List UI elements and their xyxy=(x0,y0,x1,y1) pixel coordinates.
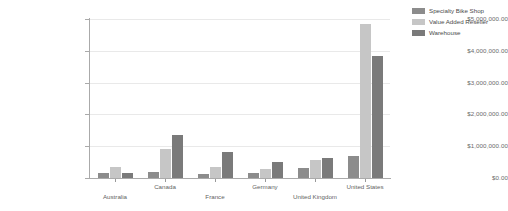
legend-item[interactable]: Value Added Reseller xyxy=(412,17,506,26)
bar-group xyxy=(198,19,233,178)
bar[interactable] xyxy=(260,169,271,178)
x-axis-tick-label: United States xyxy=(330,183,400,191)
gridline xyxy=(90,83,390,84)
legend-swatch-icon xyxy=(412,30,425,36)
bar-group xyxy=(298,19,333,178)
x-axis-tick xyxy=(165,179,166,182)
chart-legend: Specialty Bike ShopValue Added ResellerW… xyxy=(412,6,506,39)
y-axis-tick-label: $1,000,000.00 xyxy=(426,142,508,149)
bar[interactable] xyxy=(110,167,121,178)
bar[interactable] xyxy=(348,156,359,178)
x-axis-tick-label: Australia xyxy=(80,193,150,201)
bar[interactable] xyxy=(160,149,171,178)
x-axis-tick xyxy=(365,179,366,182)
gridline xyxy=(90,114,390,115)
bar-group xyxy=(248,19,283,178)
gridline xyxy=(90,146,390,147)
legend-swatch-icon xyxy=(412,19,425,25)
bar[interactable] xyxy=(222,152,233,178)
plot-area xyxy=(90,19,390,178)
legend-item[interactable]: Specialty Bike Shop xyxy=(412,6,506,15)
bar-group xyxy=(148,19,183,178)
bar[interactable] xyxy=(148,172,159,178)
x-axis-tick-label: United Kingdom xyxy=(280,193,350,201)
legend-label: Warehouse xyxy=(429,29,460,37)
bar[interactable] xyxy=(210,167,221,178)
bar[interactable] xyxy=(122,173,133,178)
x-axis-tick xyxy=(265,179,266,182)
bar[interactable] xyxy=(360,24,371,178)
y-axis-tick xyxy=(85,178,89,179)
y-axis-tick-label: $3,000,000.00 xyxy=(426,79,508,86)
bar[interactable] xyxy=(372,56,383,178)
bar[interactable] xyxy=(310,160,321,178)
gridline xyxy=(90,178,390,179)
legend-swatch-icon xyxy=(412,8,425,14)
y-axis-tick xyxy=(85,19,89,20)
x-axis-tick xyxy=(215,179,216,182)
y-axis-tick xyxy=(85,51,89,52)
legend-item[interactable]: Warehouse xyxy=(412,28,506,37)
x-axis-tick-label: France xyxy=(180,193,250,201)
bar[interactable] xyxy=(298,168,309,178)
bar-chart: $0.00$1,000,000.00$2,000,000.00$3,000,00… xyxy=(0,0,508,211)
bar[interactable] xyxy=(248,173,259,178)
legend-label: Specialty Bike Shop xyxy=(429,7,484,15)
x-axis-tick xyxy=(115,179,116,182)
y-axis-tick-label: $4,000,000.00 xyxy=(426,47,508,54)
bar[interactable] xyxy=(98,173,109,178)
bar-group xyxy=(98,19,133,178)
bar[interactable] xyxy=(198,174,209,178)
x-axis-tick-label: Canada xyxy=(130,183,200,191)
y-axis-tick-label: $0.00 xyxy=(426,174,508,181)
x-axis-tick-label: Germany xyxy=(230,183,300,191)
bar-group xyxy=(348,19,383,178)
bar[interactable] xyxy=(172,135,183,178)
y-axis-tick xyxy=(85,83,89,84)
bar[interactable] xyxy=(322,158,333,178)
gridline xyxy=(90,51,390,52)
y-axis-tick-label: $2,000,000.00 xyxy=(426,110,508,117)
y-axis-tick xyxy=(85,114,89,115)
legend-label: Value Added Reseller xyxy=(429,18,488,26)
gridline xyxy=(90,19,390,20)
bar[interactable] xyxy=(272,162,283,178)
x-axis-tick xyxy=(315,179,316,182)
y-axis-tick xyxy=(85,146,89,147)
